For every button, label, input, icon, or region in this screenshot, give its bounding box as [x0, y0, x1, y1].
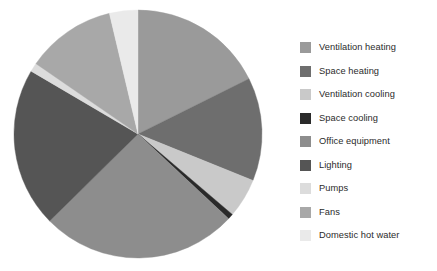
legend-item[interactable]: Domestic hot water: [300, 224, 437, 248]
legend-item-label: Domestic hot water: [319, 230, 399, 241]
legend-item[interactable]: Fans: [300, 201, 437, 225]
legend-swatch-icon: [300, 160, 311, 171]
legend-item[interactable]: Space heating: [300, 60, 437, 84]
legend-item-label: Ventilation heating: [319, 42, 396, 53]
legend-item[interactable]: Pumps: [300, 177, 437, 201]
legend-item-label: Space cooling: [319, 113, 378, 124]
legend-swatch-icon: [300, 230, 311, 241]
legend-swatch-icon: [300, 183, 311, 194]
pie-svg: [0, 0, 290, 271]
legend-item-label: Ventilation cooling: [319, 89, 395, 100]
legend-item[interactable]: Space cooling: [300, 107, 437, 131]
legend-swatch-icon: [300, 136, 311, 147]
legend-swatch-icon: [300, 207, 311, 218]
legend-swatch-icon: [300, 66, 311, 77]
legend-swatch-icon: [300, 42, 311, 53]
legend-swatch-icon: [300, 113, 311, 124]
legend-item[interactable]: Lighting: [300, 154, 437, 178]
chart-legend: Ventilation heatingSpace heatingVentilat…: [300, 36, 437, 248]
legend-item-label: Space heating: [319, 66, 379, 77]
pie-slice-group: [14, 10, 262, 258]
pie-plot-area: [0, 0, 290, 271]
legend-item[interactable]: Ventilation cooling: [300, 83, 437, 107]
legend-swatch-icon: [300, 89, 311, 100]
legend-item-label: Office equipment: [319, 136, 390, 147]
legend-item-label: Pumps: [319, 183, 348, 194]
legend-item[interactable]: Office equipment: [300, 130, 437, 154]
legend-item[interactable]: Ventilation heating: [300, 36, 437, 60]
pie-chart-figure: Ventilation heatingSpace heatingVentilat…: [0, 0, 437, 271]
legend-item-label: Fans: [319, 207, 340, 218]
legend-item-label: Lighting: [319, 160, 352, 171]
